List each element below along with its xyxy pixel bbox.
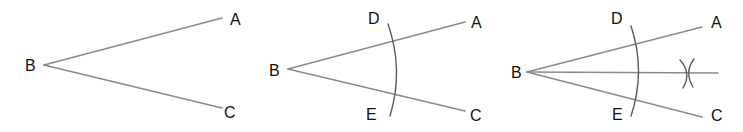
label-c: C	[470, 107, 482, 124]
label-a: A	[471, 14, 482, 31]
arc-de	[388, 24, 397, 116]
label-b: B	[269, 62, 280, 79]
ray-ba	[527, 27, 702, 72]
angle-bisection-diagram: B A C B A C D E B A C D E	[0, 0, 743, 132]
arc-de	[631, 26, 639, 116]
ray-ba	[288, 22, 465, 69]
panel-1-given-angle: B A C	[25, 11, 241, 121]
ray-bc	[288, 69, 465, 111]
label-b: B	[511, 64, 522, 81]
label-c: C	[711, 107, 723, 124]
ray-ba	[44, 18, 222, 65]
label-b: B	[25, 57, 36, 74]
arc-from-d	[680, 60, 687, 88]
label-d: D	[611, 10, 623, 27]
panel-3-bisector: B A C D E	[511, 10, 723, 124]
label-a: A	[711, 14, 722, 31]
label-d: D	[368, 10, 380, 27]
label-a: A	[230, 11, 241, 28]
panel-2-arc-construction: B A C D E	[269, 10, 482, 124]
label-e: E	[366, 106, 377, 123]
label-e: E	[612, 106, 623, 123]
label-c: C	[224, 104, 236, 121]
ray-bc	[44, 65, 222, 108]
